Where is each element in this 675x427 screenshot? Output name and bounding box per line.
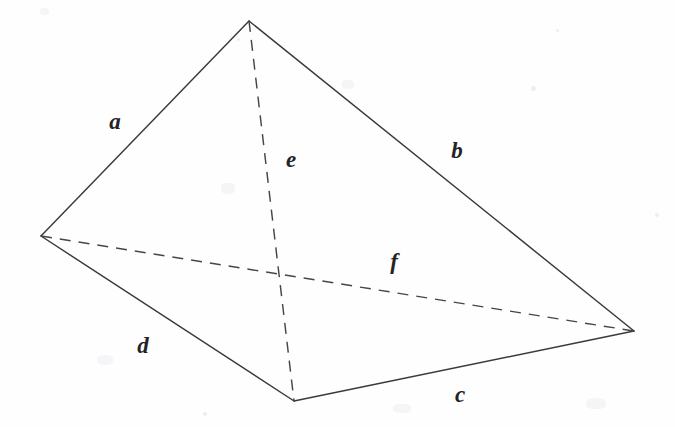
dashed-edges	[41, 21, 634, 401]
edge-d-line	[41, 236, 294, 401]
tetrahedron-figure: a b c d e f	[0, 0, 675, 427]
edge-label-e: e	[286, 148, 296, 171]
edge-b-line	[249, 21, 634, 331]
edge-a-line	[41, 21, 249, 236]
solid-edges	[41, 21, 634, 401]
edge-e-line	[249, 21, 294, 401]
tetrahedron-svg	[0, 0, 675, 427]
edge-label-a: a	[109, 110, 121, 133]
edge-label-d: d	[137, 334, 149, 357]
edge-f-line	[41, 236, 634, 331]
edge-label-b: b	[451, 139, 463, 162]
edge-label-f: f	[390, 250, 398, 273]
edge-label-c: c	[455, 383, 465, 406]
